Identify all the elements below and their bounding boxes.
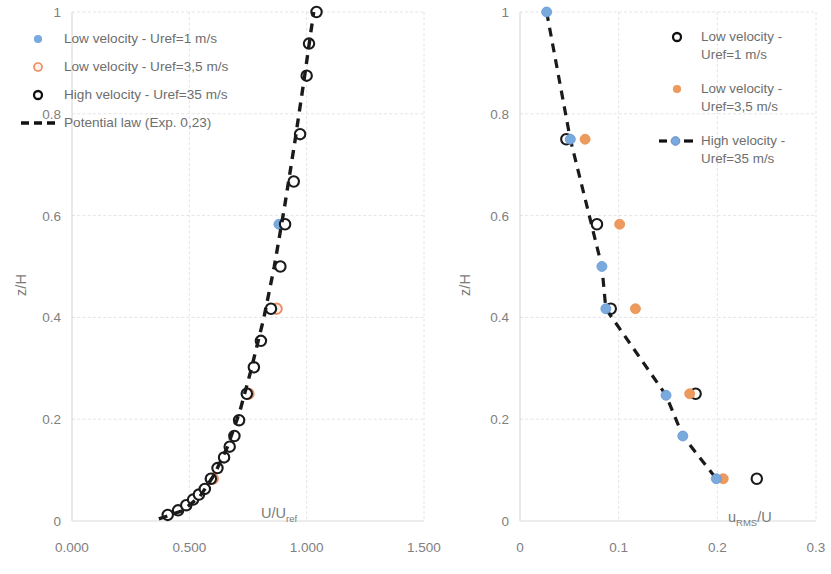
two-panel-figure: 00.20.40.60.810.0000.5001.0001.500z/HU/U… <box>0 0 831 574</box>
legend-item: Low velocity - Uref=1 m/s <box>659 28 785 64</box>
legend-item-label: Low velocity - Uref=1 m/s <box>701 28 782 64</box>
x-tick-label: 0.000 <box>55 540 89 555</box>
y-axis-title: z/H <box>457 274 473 296</box>
x-axis-title: uRMS/U <box>728 509 772 528</box>
y-tick-label: 0.4 <box>42 310 61 325</box>
data-point <box>678 431 688 441</box>
filled-blue-circle-marker <box>18 30 58 47</box>
data-point <box>711 474 721 484</box>
y-tick-label: 0.6 <box>490 209 509 224</box>
open-black-circle-marker <box>18 86 58 103</box>
data-point <box>565 134 575 144</box>
data-point <box>685 389 695 399</box>
y-axis-title: z/H <box>13 274 29 296</box>
legend-item-label: High velocity - Uref=35 m/s <box>64 86 228 103</box>
x-tick-label: 1.500 <box>407 540 441 555</box>
data-point <box>752 474 762 484</box>
x-tick-label: 0 <box>516 540 524 555</box>
x-tick-label: 0.500 <box>172 540 206 555</box>
y-tick-label: 0 <box>53 514 61 529</box>
data-point <box>615 219 625 229</box>
data-point <box>542 7 552 17</box>
y-tick-label: 0 <box>501 514 509 529</box>
data-point <box>630 304 640 314</box>
data-point <box>580 134 590 144</box>
x-tick-label: 0.3 <box>807 540 826 555</box>
y-tick-label: 0.2 <box>42 412 61 427</box>
y-tick-label: 1 <box>501 5 509 20</box>
y-tick-label: 0.6 <box>42 209 61 224</box>
legend-item: Low velocity - Uref=3,5 m/s <box>18 58 228 75</box>
y-tick-label: 0.4 <box>490 310 509 325</box>
legend-item: Low velocity - Uref=1 m/s <box>18 30 228 47</box>
filled-orange-circle-marker <box>659 80 695 97</box>
legend-item: High velocity - Uref=35 m/s <box>18 86 228 103</box>
legend-item-label: Low velocity - Uref=1 m/s <box>64 30 217 47</box>
right-chart-legend: Low velocity - Uref=1 m/s Low velocity -… <box>659 28 785 184</box>
left-chart-legend: Low velocity - Uref=1 m/s Low velocity -… <box>18 30 228 142</box>
data-point <box>592 219 602 229</box>
blue-circle-dashed-line-marker <box>659 132 695 149</box>
data-point <box>289 176 299 186</box>
x-tick-label: 0.2 <box>708 540 727 555</box>
legend-item: Potential law (Exp. 0,23) <box>18 114 228 131</box>
legend-item-label: Low velocity - Uref=3,5 m/s <box>701 80 782 116</box>
legend-item-label: High velocity - Uref=35 m/s <box>701 132 785 168</box>
y-tick-label: 1 <box>53 5 61 20</box>
mean-velocity-profile-chart: 00.20.40.60.810.0000.5001.0001.500z/HU/U… <box>0 0 440 574</box>
open-black-circle-marker <box>659 28 695 45</box>
legend-item: Low velocity - Uref=3,5 m/s <box>659 80 785 116</box>
turbulence-intensity-profile-chart: 00.20.40.60.8100.10.20.3z/HuRMS/U Low ve… <box>440 0 831 574</box>
x-tick-label: 1.000 <box>290 540 324 555</box>
y-tick-label: 0.2 <box>490 412 509 427</box>
legend-item: High velocity - Uref=35 m/s <box>659 132 785 168</box>
data-point <box>597 262 607 272</box>
legend-item-label: Potential law (Exp. 0,23) <box>64 114 211 131</box>
data-point <box>601 304 611 314</box>
open-orange-circle-marker <box>18 58 58 75</box>
legend-item-label: Low velocity - Uref=3,5 m/s <box>64 58 228 75</box>
data-point <box>275 261 285 271</box>
data-point <box>661 390 671 400</box>
dashed-black-line-marker <box>18 114 58 131</box>
x-tick-label: 0.1 <box>609 540 628 555</box>
y-tick-label: 0.8 <box>490 107 509 122</box>
